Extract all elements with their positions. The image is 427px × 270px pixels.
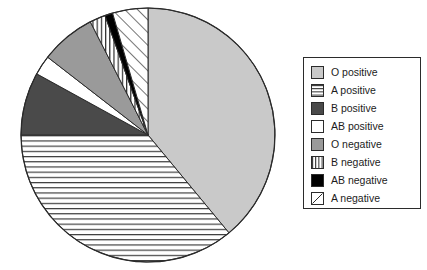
legend-swatch-b-negative bbox=[311, 156, 324, 169]
legend-label-a-positive: A positive bbox=[331, 85, 376, 96]
legend-item-b-negative[interactable]: B negative bbox=[311, 153, 420, 171]
chart-legend: O positive A positive B positive AB posi… bbox=[303, 57, 421, 209]
legend-label-b-positive: B positive bbox=[331, 103, 377, 114]
legend-item-ab-negative[interactable]: AB negative bbox=[311, 171, 420, 189]
legend-swatch-o-positive bbox=[311, 66, 324, 79]
legend-item-ab-positive[interactable]: AB positive bbox=[311, 117, 420, 135]
legend-swatch-a-positive bbox=[311, 84, 324, 97]
legend-label-ab-negative: AB negative bbox=[331, 175, 388, 186]
legend-swatch-ab-negative bbox=[311, 174, 324, 187]
legend-label-b-negative: B negative bbox=[331, 157, 381, 168]
legend-swatch-ab-positive bbox=[311, 120, 324, 133]
legend-swatch-o-negative bbox=[311, 138, 324, 151]
legend-label-ab-positive: AB positive bbox=[331, 121, 384, 132]
legend-item-a-positive[interactable]: A positive bbox=[311, 81, 420, 99]
legend-swatch-b-positive bbox=[311, 102, 324, 115]
legend-item-b-positive[interactable]: B positive bbox=[311, 99, 420, 117]
legend-label-a-negative: A negative bbox=[331, 193, 380, 204]
legend-label-o-positive: O positive bbox=[331, 67, 378, 78]
legend-label-o-negative: O negative bbox=[331, 139, 382, 150]
legend-item-a-negative[interactable]: A negative bbox=[311, 189, 420, 207]
pie-slices bbox=[21, 8, 275, 262]
legend-swatch-a-negative bbox=[311, 192, 324, 205]
legend-item-o-positive[interactable]: O positive bbox=[311, 63, 420, 81]
legend-item-o-negative[interactable]: O negative bbox=[311, 135, 420, 153]
